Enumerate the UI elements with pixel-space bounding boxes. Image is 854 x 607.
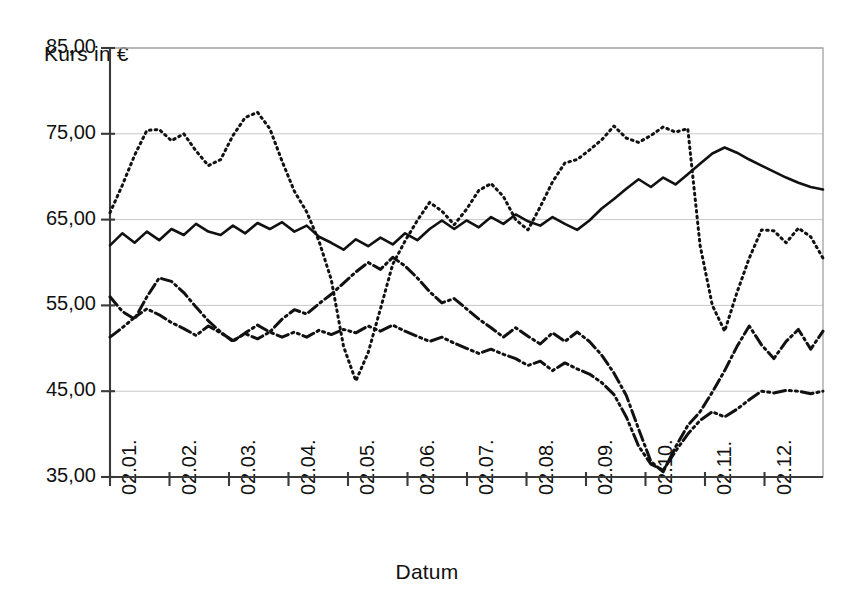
plot-area	[0, 0, 854, 607]
line-chart: Kurs in € Datum 35,0045,0055,0065,0075,0…	[0, 0, 854, 607]
series-line-3	[110, 257, 823, 472]
series-line-4	[110, 309, 823, 470]
series-line-1	[110, 148, 823, 250]
data-series-group	[110, 112, 823, 472]
tick-marks	[101, 48, 765, 486]
